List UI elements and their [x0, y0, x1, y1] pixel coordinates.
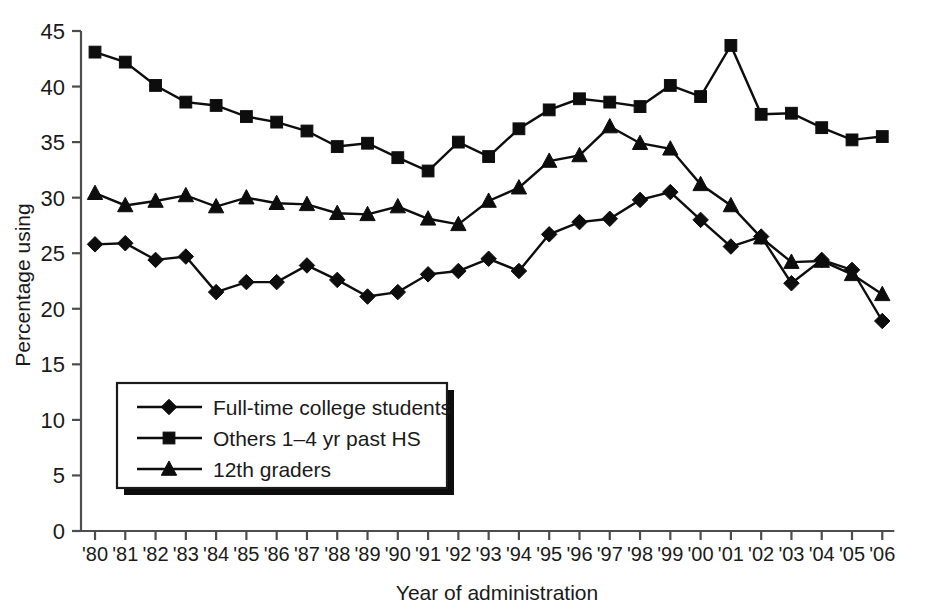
triangle-marker	[178, 187, 193, 201]
square-marker	[331, 141, 343, 153]
diamond-marker	[87, 237, 103, 253]
triangle-marker	[481, 193, 496, 207]
x-tick-label: '93	[476, 543, 502, 565]
x-tick-label: '05	[839, 543, 865, 565]
y-tick-label: 5	[53, 463, 65, 488]
diamond-marker	[148, 252, 164, 268]
x-tick-label: '96	[566, 543, 592, 565]
y-tick-label: 15	[41, 352, 65, 377]
square-marker	[604, 96, 616, 108]
triangle-marker	[239, 190, 254, 204]
square-marker	[816, 122, 828, 134]
x-tick-label: '94	[506, 543, 532, 565]
diamond-marker	[420, 267, 436, 283]
x-tick-label: '04	[809, 543, 835, 565]
triangle-marker	[632, 135, 647, 149]
square-marker	[89, 46, 101, 58]
x-tick-label: '98	[627, 543, 653, 565]
diamond-marker	[329, 272, 345, 288]
y-tick-label: 25	[41, 241, 65, 266]
square-marker	[392, 152, 404, 164]
diamond-marker	[269, 274, 285, 290]
triangle-marker	[875, 286, 890, 300]
x-tick-label: '03	[778, 543, 804, 565]
square-marker	[119, 56, 131, 68]
square-marker	[150, 80, 162, 92]
square-marker	[301, 125, 313, 137]
square-marker	[664, 80, 676, 92]
diamond-marker	[360, 289, 376, 305]
chart-legend: Full-time college studentsOthers 1–4 yr …	[117, 383, 454, 495]
square-marker	[755, 108, 767, 120]
diamond-marker	[632, 192, 648, 208]
y-tick-label: 20	[41, 297, 65, 322]
legend-item-label: 12th graders	[213, 458, 331, 481]
square-marker	[362, 137, 374, 149]
y-axis: 051015202530354045	[41, 19, 81, 544]
square-marker	[163, 432, 175, 444]
square-marker	[513, 123, 525, 135]
diamond-marker	[118, 235, 134, 251]
x-tick-label: '06	[869, 543, 895, 565]
square-marker	[210, 100, 222, 112]
diamond-marker	[481, 251, 497, 267]
x-tick-label: '89	[354, 543, 380, 565]
triangle-marker	[602, 118, 617, 132]
square-marker	[876, 131, 888, 143]
series-3	[87, 118, 890, 300]
x-tick-label: '87	[294, 543, 320, 565]
y-tick-label: 45	[41, 19, 65, 44]
x-tick-label: '80	[82, 543, 108, 565]
x-axis-title: Year of administration	[396, 581, 598, 604]
square-marker	[241, 111, 253, 123]
x-tick-label: '90	[385, 543, 411, 565]
y-tick-label: 0	[53, 519, 65, 544]
square-marker	[846, 134, 858, 146]
x-tick-label: '88	[324, 543, 350, 565]
y-tick-label: 40	[41, 75, 65, 100]
y-tick-label: 30	[41, 186, 65, 211]
chart-page: 051015202530354045 '80'81'82'83'84'85'86…	[0, 0, 947, 614]
x-tick-label: '82	[143, 543, 169, 565]
diamond-marker	[602, 211, 618, 227]
x-axis: '80'81'82'83'84'85'86'87'88'89'90'91'92'…	[81, 531, 895, 565]
square-marker	[695, 91, 707, 103]
x-tick-label: '84	[203, 543, 229, 565]
legend-item-label: Full-time college students	[213, 396, 451, 419]
x-tick-label: '95	[536, 543, 562, 565]
x-tick-label: '97	[597, 543, 623, 565]
square-marker	[271, 116, 283, 128]
square-marker	[725, 40, 737, 52]
x-tick-label: '02	[748, 543, 774, 565]
y-tick-label: 35	[41, 130, 65, 155]
x-tick-label: '99	[657, 543, 683, 565]
square-marker	[543, 104, 555, 116]
square-marker	[180, 96, 192, 108]
square-marker	[574, 93, 586, 105]
x-tick-label: '86	[264, 543, 290, 565]
x-tick-label: '85	[233, 543, 259, 565]
diamond-marker	[875, 313, 891, 329]
diamond-marker	[390, 284, 406, 300]
x-tick-label: '91	[415, 543, 441, 565]
y-axis-title: Percentage using	[11, 203, 34, 366]
legend-item-label: Others 1–4 yr past HS	[213, 427, 421, 450]
x-tick-label: '92	[445, 543, 471, 565]
triangle-marker	[87, 185, 102, 199]
x-tick-label: '01	[718, 543, 744, 565]
triangle-marker	[723, 197, 738, 211]
square-marker	[786, 107, 798, 119]
square-marker	[634, 101, 646, 113]
square-marker	[422, 165, 434, 177]
y-tick-label: 10	[41, 408, 65, 433]
square-marker	[483, 151, 495, 163]
diamond-marker	[572, 214, 588, 230]
x-tick-label: '00	[688, 543, 714, 565]
diamond-marker	[299, 258, 315, 274]
square-marker	[452, 136, 464, 148]
series-layer	[87, 40, 890, 329]
triangle-marker	[390, 198, 405, 212]
line-chart: 051015202530354045 '80'81'82'83'84'85'86…	[0, 0, 947, 614]
x-tick-label: '81	[112, 543, 138, 565]
diamond-marker	[451, 263, 467, 279]
